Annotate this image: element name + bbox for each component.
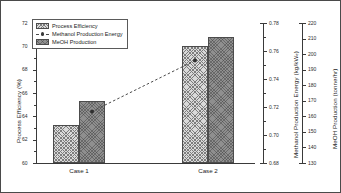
outer-right-axis-bottom-cap [299,163,302,164]
outer-right-tick-label-190: 190 [308,67,316,72]
bar-meoh-production-case-1 [79,101,105,163]
inner-right-tick-072 [264,107,267,108]
outer-right-tick-label-180: 180 [308,83,316,88]
left-tick-68 [33,70,36,71]
outer-right-tick-210 [303,39,306,40]
outer-right-tick-150 [303,132,306,133]
left-tick-label-66: 66 [22,91,28,96]
outer-right-tick-label-160: 160 [308,114,316,119]
inner-right-tick-label-072: 0.72 [269,105,279,110]
inner-right-axis-title: Methanol Production Energy (kg/kWₑ) [292,51,299,158]
inner-right-tick-minor-073 [264,93,266,94]
left-tick-minor-63 [34,128,36,129]
inner-right-tick-minor-075 [264,65,266,66]
outer-right-y-axis-line [302,23,303,164]
left-tick-label-60: 60 [22,161,28,166]
outer-right-tick-label-220: 220 [308,21,316,26]
outer-right-tick-130 [303,163,306,164]
left-tick-label-72: 72 [22,21,28,26]
bar-meoh-production-case-2 [208,37,234,163]
inner-right-tick-label-078: 0.78 [269,21,279,26]
outer-right-tick-label-200: 200 [308,52,316,57]
inner-right-tick-minor-069 [264,149,266,150]
outer-right-tick-200 [303,54,306,55]
legend-label-meoh-production: MeOH Production [52,39,96,45]
left-axis-title: Process Efficiency (%) [15,79,22,143]
left-tick-minor-67 [34,81,36,82]
left-tick-label-70: 70 [22,44,28,49]
inner-right-tick-076 [264,51,267,52]
legend-label-methanol-production-energy: Methanol Production Energy [52,31,123,37]
left-tick-label-68: 68 [22,67,28,72]
left-tick-minor-69 [34,58,36,59]
left-tick-64 [33,116,36,117]
legend-item-meoh-production: MeOH Production [36,38,123,46]
legend-swatch-solid-icon [36,39,49,45]
outer-right-tick-label-130: 130 [308,161,316,166]
outer-right-tick-label-210: 210 [308,36,316,41]
bar-process-efficiency-case-2 [182,46,208,163]
series-line-segment [92,61,195,112]
outer-right-tick-160 [303,116,306,117]
inner-right-tick-068 [264,163,267,164]
left-tick-label-64: 64 [22,114,28,119]
outer-right-tick-180 [303,85,306,86]
outer-right-tick-label-150: 150 [308,129,316,134]
bar-process-efficiency-case-1 [53,125,79,164]
legend-dashed-line-marker-icon [36,31,49,37]
x-tick-label-case-2: Case 2 [188,167,228,174]
outer-right-tick-label-140: 140 [308,145,316,150]
outer-right-tick-170 [303,101,306,102]
inner-right-tick-minor-071 [264,121,266,122]
outer-right-tick-190 [303,70,306,71]
x-tick-label-case-1: Case 1 [59,167,99,174]
outer-right-axis-title: MeOH Production (tonne/hr) [331,69,338,149]
outer-right-tick-220 [303,23,306,24]
inner-right-tick-label-074: 0.74 [269,77,279,82]
x-axis-line [36,163,255,164]
legend-label-process-efficiency: Process Efficiency [52,23,98,29]
legend-item-process-efficiency: Process Efficiency [36,22,123,30]
inner-right-tick-078 [264,23,267,24]
left-tick-minor-61 [34,151,36,152]
left-tick-62 [33,140,36,141]
left-tick-66 [33,93,36,94]
left-tick-60 [33,163,36,164]
outer-right-tick-label-170: 170 [308,98,316,103]
inner-right-tick-070 [264,135,267,136]
chart-figure: 60 62 64 66 68 70 72 Process Efficiency … [0,0,341,193]
inner-right-tick-label-070: 0.70 [269,133,279,138]
legend-item-methanol-production-energy: Methanol Production Energy [36,30,123,38]
left-tick-label-62: 62 [22,137,28,142]
inner-right-tick-074 [264,79,267,80]
inner-right-tick-label-068: 0.68 [269,161,279,166]
chart-legend: Process Efficiency Methanol Production E… [32,19,128,49]
outer-right-axis-top-cap [299,23,302,24]
inner-right-axis-bottom-cap [260,163,263,164]
inner-right-tick-label-076: 0.76 [269,49,279,54]
inner-right-axis-top-cap [260,23,263,24]
left-tick-minor-65 [34,105,36,106]
inner-right-tick-minor-077 [264,37,266,38]
outer-right-tick-140 [303,147,306,148]
legend-swatch-hatched-icon [36,23,49,29]
